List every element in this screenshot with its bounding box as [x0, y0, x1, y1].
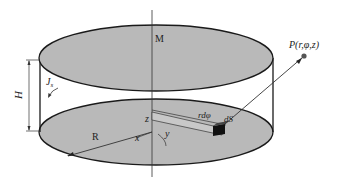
- p-arrow-icon: [296, 58, 302, 64]
- h-arrow-down-icon: [28, 126, 31, 131]
- label-m: M: [155, 33, 164, 44]
- ds-element-front: [213, 124, 225, 136]
- label-js: Js: [46, 76, 53, 89]
- label-point-p: P(r,φ,z): [288, 39, 320, 51]
- label-y: y: [164, 128, 170, 139]
- point-p: [301, 53, 306, 58]
- label-z: z: [144, 113, 149, 124]
- label-h: H: [12, 90, 24, 100]
- label-r: R: [92, 131, 99, 142]
- js-arrowhead-icon: [48, 93, 52, 98]
- label-ds: dS: [224, 114, 234, 124]
- label-rdphi: rdφ: [198, 110, 211, 120]
- bottom-disc: [39, 99, 273, 165]
- h-arrow-up-icon: [28, 60, 31, 65]
- cylinder-current-sheet-diagram: M H Js R x y z rdφ dS P(r,φ,z): [0, 0, 339, 186]
- label-x: x: [134, 132, 140, 143]
